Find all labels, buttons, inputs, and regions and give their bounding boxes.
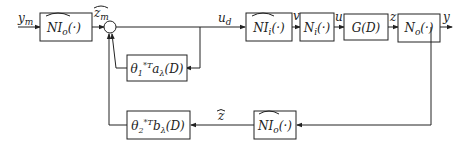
svg-text:zm: zm — [93, 6, 109, 22]
svg-text:G(D): G(D) — [352, 21, 381, 35]
signal-label-v: v — [293, 9, 300, 23]
summing-junction — [104, 21, 116, 33]
block-ni-i-hat: NIi(·) — [246, 13, 292, 41]
signal-label-z: z — [389, 10, 397, 24]
svg-text:Ni(·): Ni(·) — [303, 21, 331, 37]
signal-label-ym: ym — [17, 11, 33, 27]
svg-text:z: z — [217, 109, 225, 123]
signal-label-zm-hat: zm — [93, 6, 109, 22]
block-n-o: No(·) — [398, 14, 440, 42]
signal-label-ud: ud — [218, 11, 232, 27]
signal-label-u: u — [335, 10, 343, 24]
block-diagram: ym NIo(·) zm ud θ1*Taλ(D) NIi(·) v Ni(·)… — [0, 0, 456, 146]
block-ni-o-hat-feedback: NIo(·) — [254, 111, 296, 139]
block-n-i: Ni(·) — [300, 13, 334, 41]
block-g-d: G(D) — [344, 14, 388, 40]
block-ni-o-hat-forward: NIo(·) — [40, 13, 92, 41]
input-signal-ym: ym — [17, 11, 40, 27]
signal-label-z-hat: z — [217, 109, 225, 123]
signal-label-y: y — [442, 10, 450, 24]
block-theta1-a-lambda: θ1*Taλ(D) — [127, 55, 187, 81]
block-theta2-b-lambda: θ2*Tbλ(D) — [127, 111, 190, 139]
